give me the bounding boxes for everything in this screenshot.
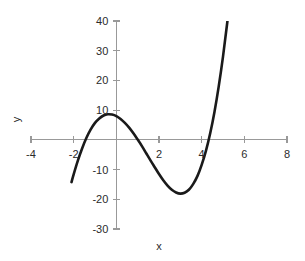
axes-group [31, 21, 287, 229]
y-tick-label: 30 [96, 45, 108, 56]
chart-container: -4-22468-30-20-1010203040 x y [0, 0, 305, 261]
x-axis-title: x [156, 241, 162, 252]
y-tick-label: 20 [96, 75, 108, 86]
x-tick-label: -4 [26, 149, 36, 160]
y-tick-label: -20 [92, 194, 108, 205]
y-axis-title: y [11, 117, 22, 123]
y-tick-label: 40 [96, 16, 108, 27]
x-tick-label: 4 [199, 149, 205, 160]
x-tick-label: 8 [284, 149, 290, 160]
y-tick-label: -30 [92, 224, 108, 235]
y-tick-label: 10 [96, 105, 108, 116]
y-tick-label: -10 [92, 164, 108, 175]
x-tick-label: -2 [69, 149, 79, 160]
x-tick-label: 2 [156, 149, 162, 160]
x-tick-label: 6 [241, 149, 247, 160]
plot-area [0, 0, 305, 261]
